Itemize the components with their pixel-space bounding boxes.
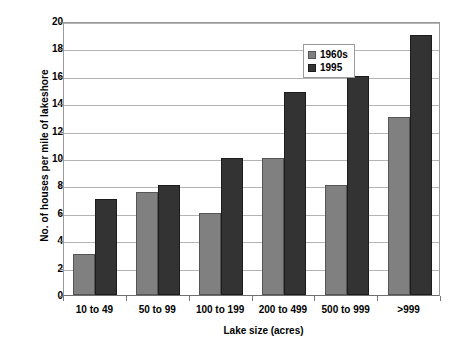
y-tick-label: 4	[19, 236, 63, 246]
gridline	[64, 133, 439, 134]
plot-area	[63, 22, 440, 296]
gridline	[64, 23, 439, 24]
chart-legend: 1960s1995	[303, 44, 355, 78]
legend-item-1995: 1995	[308, 61, 348, 74]
legend-label: 1960s	[320, 50, 348, 60]
gridline	[64, 105, 439, 106]
x-tick-label: 10 to 49	[76, 304, 113, 315]
x-tick-mark	[252, 296, 253, 301]
legend-swatch-icon	[308, 64, 316, 72]
gridline	[64, 270, 439, 271]
x-tick-label: 200 to 499	[259, 304, 307, 315]
gridline	[64, 78, 439, 79]
bar-1995-4	[347, 76, 369, 295]
y-tick-label: 2	[19, 264, 63, 274]
legend-label: 1995	[320, 63, 342, 73]
x-tick-label: >999	[397, 304, 420, 315]
bar-1960s-1	[136, 192, 158, 295]
bar-1960s-3	[262, 158, 284, 295]
bar-1995-3	[284, 92, 306, 295]
y-tick-label: 14	[19, 99, 63, 109]
gridline	[64, 215, 439, 216]
legend-swatch-icon	[308, 51, 316, 59]
gridline	[64, 50, 439, 51]
y-tick-label: 20	[19, 17, 63, 27]
x-tick-label: 100 to 199	[196, 304, 244, 315]
bar-1960s-5	[388, 117, 410, 295]
x-tick-mark	[440, 296, 441, 301]
bar-1960s-2	[199, 213, 221, 295]
bar-1995-1	[158, 185, 180, 295]
x-tick-label: 500 to 999	[322, 304, 370, 315]
x-tick-mark	[314, 296, 315, 301]
x-axis-title: Lake size (acres)	[0, 325, 464, 336]
y-axis-ticks: 02468101214161820	[0, 22, 63, 296]
y-tick-label: 8	[19, 181, 63, 191]
gridline	[64, 187, 439, 188]
x-tick-mark	[189, 296, 190, 301]
bar-1995-5	[410, 35, 432, 295]
gridline	[64, 242, 439, 243]
y-tick-label: 6	[19, 209, 63, 219]
y-tick-label: 0	[19, 291, 63, 301]
x-tick-label: 50 to 99	[139, 304, 176, 315]
bar-chart: No. of houses per mile of lakeshore 0246…	[0, 0, 464, 354]
bar-1995-0	[95, 199, 117, 295]
y-tick-label: 12	[19, 127, 63, 137]
bar-1960s-4	[325, 185, 347, 295]
y-tick-label: 18	[19, 44, 63, 54]
y-tick-label: 16	[19, 72, 63, 82]
bar-1960s-0	[73, 254, 95, 295]
legend-item-1960s: 1960s	[308, 48, 348, 61]
x-tick-mark	[126, 296, 127, 301]
bar-1995-2	[221, 158, 243, 295]
x-tick-mark	[63, 296, 64, 301]
gridline	[64, 160, 439, 161]
x-tick-mark	[377, 296, 378, 301]
y-tick-label: 10	[19, 154, 63, 164]
